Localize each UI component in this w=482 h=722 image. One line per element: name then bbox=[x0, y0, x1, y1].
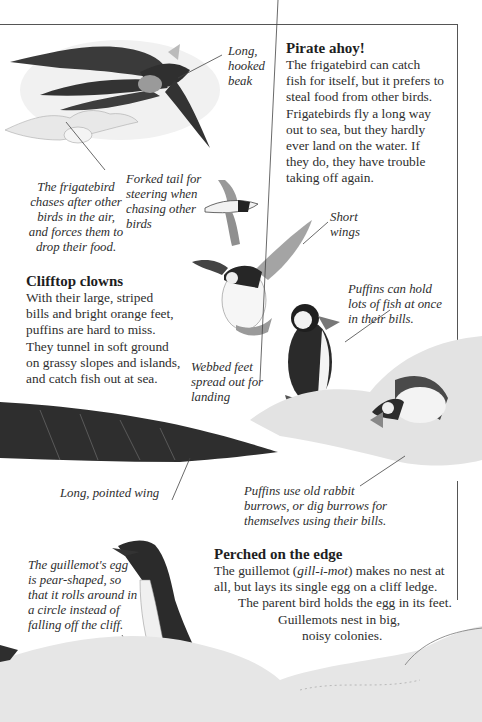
caption-line: in their bills. bbox=[348, 312, 442, 327]
caption-line: lots of fish at once bbox=[348, 297, 442, 312]
body-line: out to sea, but they hardly bbox=[286, 122, 456, 138]
section-perched-on-edge: Perched on the edge The guillemot (gill-… bbox=[214, 546, 459, 644]
section-heading: Pirate ahoy! bbox=[286, 40, 456, 57]
section-heading: Clifftop clowns bbox=[26, 273, 206, 290]
body-line: bills and bright orange feet, bbox=[26, 306, 206, 322]
caption-webbed-feet: Webbed feet spread out for landing bbox=[191, 360, 263, 405]
body-line: taking off again. bbox=[286, 170, 456, 186]
body-line: The parent bird holds the egg in its fee… bbox=[214, 595, 459, 611]
caption-line: Long, bbox=[228, 44, 265, 59]
section-clifftop-clowns: Clifftop clowns With their large, stripe… bbox=[26, 273, 206, 387]
section-body: The guillemot (gill-i-mot) makes no nest… bbox=[214, 563, 459, 644]
caption-line: a circle instead of bbox=[28, 603, 137, 618]
body-line: on grassy slopes and islands, bbox=[26, 355, 206, 371]
pronunciation: gill-i-mot bbox=[297, 563, 348, 578]
caption-line: falling off the cliff. bbox=[28, 618, 137, 633]
caption-line: Short bbox=[330, 210, 360, 225]
body-line: steal food from other birds. bbox=[286, 89, 456, 105]
caption-short-wings: Short wings bbox=[330, 210, 360, 240]
caption-line: Webbed feet bbox=[191, 360, 263, 375]
caption-frigatebird-chase: The frigatebird chases after other birds… bbox=[26, 180, 126, 255]
caption-line: The frigatebird bbox=[26, 180, 126, 195]
caption-line: burrows, or dig burrows for bbox=[244, 499, 387, 514]
body-line: and catch fish out at sea. bbox=[26, 371, 206, 387]
body-line: They tunnel in soft ground bbox=[26, 339, 206, 355]
body-line: With their large, striped bbox=[26, 290, 206, 306]
caption-line: chases after other bbox=[26, 195, 126, 210]
body-line: The frigatebird can catch bbox=[286, 57, 456, 73]
caption-line: landing bbox=[191, 390, 263, 405]
caption-puffin-fish: Puffins can hold lots of fish at once in… bbox=[348, 282, 442, 327]
caption-forked-tail: Forked tail for steering when chasing ot… bbox=[126, 172, 201, 232]
caption-hooked-beak: Long, hooked beak bbox=[228, 44, 265, 89]
body-line: The guillemot (gill-i-mot) makes no nest… bbox=[214, 563, 459, 579]
section-body: With their large, striped bills and brig… bbox=[26, 290, 206, 387]
caption-line: is pear-shaped, so bbox=[28, 573, 137, 588]
text-run: The guillemot ( bbox=[214, 563, 297, 578]
caption-line: drop their food. bbox=[26, 240, 126, 255]
caption-line: beak bbox=[228, 74, 265, 89]
gull-illustration bbox=[5, 111, 138, 170]
text-run: ) makes no nest at bbox=[348, 563, 445, 578]
section-pirate-ahoy: Pirate ahoy! The frigatebird can catch f… bbox=[286, 40, 456, 187]
caption-line: Long, pointed wing bbox=[60, 486, 159, 501]
caption-line: birds in the air, bbox=[26, 210, 126, 225]
body-line: they do, they have trouble bbox=[286, 154, 456, 170]
caption-pointed-wing: Long, pointed wing bbox=[60, 486, 159, 501]
body-line: all, but lays its single egg on a cliff … bbox=[214, 579, 459, 595]
caption-line: Forked tail for bbox=[126, 172, 201, 187]
body-line: Guillemots nest in big, bbox=[214, 612, 459, 628]
caption-line: themselves using their bills. bbox=[244, 514, 387, 529]
caption-line: birds bbox=[126, 217, 201, 232]
body-line: ever land on the water. If bbox=[286, 138, 456, 154]
caption-line: and forces them to bbox=[26, 225, 126, 240]
flying-puffin-illustration bbox=[205, 180, 258, 246]
body-line: noisy colonies. bbox=[214, 628, 459, 644]
caption-line: steering when bbox=[126, 187, 201, 202]
caption-line: chasing other bbox=[126, 202, 201, 217]
caption-line: Puffins use old rabbit bbox=[244, 484, 387, 499]
section-heading: Perched on the edge bbox=[214, 546, 459, 563]
caption-line: hooked bbox=[228, 59, 265, 74]
body-line: puffins are hard to miss. bbox=[26, 322, 206, 338]
body-line: Frigatebirds fly a long way bbox=[286, 106, 456, 122]
section-body: The frigatebird can catch fish for itsel… bbox=[286, 57, 456, 187]
caption-burrows: Puffins use old rabbit burrows, or dig b… bbox=[244, 484, 387, 529]
caption-guillemot-egg: The guillemot's egg is pear-shaped, so t… bbox=[28, 558, 137, 633]
caption-line: wings bbox=[330, 225, 360, 240]
body-line: fish for itself, but it prefers to bbox=[286, 73, 456, 89]
caption-line: that it rolls around in bbox=[28, 588, 137, 603]
burrow-illustration bbox=[250, 336, 482, 486]
caption-line: Puffins can hold bbox=[348, 282, 442, 297]
caption-line: The guillemot's egg bbox=[28, 558, 137, 573]
caption-line: spread out for bbox=[191, 375, 263, 390]
